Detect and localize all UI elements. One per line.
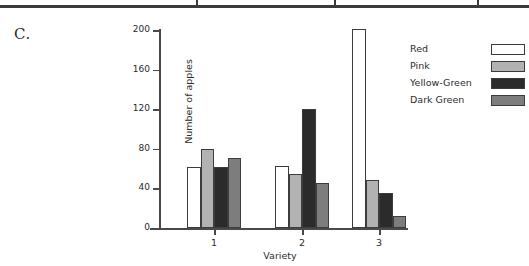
legend-item: Pink bbox=[410, 59, 525, 75]
legend-swatch bbox=[491, 61, 525, 72]
legend-label: Pink bbox=[410, 60, 430, 71]
x-tick-label: 3 bbox=[364, 237, 394, 248]
x-tick-mark bbox=[302, 228, 304, 235]
legend-item: Red bbox=[410, 42, 525, 58]
bar bbox=[302, 109, 316, 228]
bar-chart: 04080120160200 123 Number of apples Vari… bbox=[0, 0, 529, 266]
bar bbox=[393, 216, 407, 228]
x-tick-mark bbox=[379, 228, 381, 235]
legend-label: Red bbox=[410, 43, 428, 54]
legend-label: Yellow-Green bbox=[410, 77, 472, 88]
bar bbox=[201, 149, 215, 228]
bar bbox=[379, 193, 393, 228]
legend-swatch bbox=[491, 78, 525, 89]
plot-area: Number of apples bbox=[160, 30, 400, 228]
y-tick-mark bbox=[153, 109, 160, 111]
y-tick-label: 0 bbox=[114, 223, 150, 232]
x-axis-spine bbox=[150, 228, 408, 230]
bar bbox=[187, 167, 201, 228]
y-tick-label: 160 bbox=[114, 65, 150, 74]
bar bbox=[352, 29, 366, 228]
x-tick-label: 2 bbox=[287, 237, 317, 248]
bar bbox=[228, 158, 242, 228]
y-tick-mark bbox=[153, 70, 160, 72]
legend-label: Dark Green bbox=[410, 94, 464, 105]
legend-item: Yellow-Green bbox=[410, 76, 525, 92]
x-tick-label: 1 bbox=[199, 237, 229, 248]
y-tick-label: 40 bbox=[114, 183, 150, 192]
y-tick-label: 200 bbox=[114, 25, 150, 34]
y-tick-mark bbox=[153, 149, 160, 151]
y-tick-label-wrap: 0 bbox=[112, 223, 150, 233]
bar bbox=[289, 174, 303, 228]
y-tick-label-wrap: 160 bbox=[112, 65, 150, 75]
bar bbox=[316, 183, 330, 228]
y-tick-mark bbox=[153, 30, 160, 32]
legend-item: Dark Green bbox=[410, 93, 525, 109]
x-axis-title: Variety bbox=[160, 250, 400, 261]
x-tick-mark bbox=[214, 228, 216, 235]
chart-legend: RedPinkYellow-GreenDark Green bbox=[410, 42, 525, 110]
y-axis-title: Number of apples bbox=[183, 32, 194, 172]
y-tick-label-wrap: 120 bbox=[112, 104, 150, 114]
y-tick-label: 80 bbox=[114, 144, 150, 153]
bar bbox=[275, 166, 289, 228]
y-tick-label-wrap: 80 bbox=[112, 144, 150, 154]
y-tick-mark bbox=[153, 228, 160, 230]
legend-swatch bbox=[491, 44, 525, 55]
bar bbox=[214, 167, 228, 228]
y-tick-label-wrap: 40 bbox=[112, 183, 150, 193]
y-tick-mark bbox=[153, 188, 160, 190]
y-tick-label-wrap: 200 bbox=[112, 25, 150, 35]
bar bbox=[366, 180, 380, 229]
legend-swatch bbox=[491, 95, 525, 106]
y-tick-label: 120 bbox=[114, 104, 150, 113]
